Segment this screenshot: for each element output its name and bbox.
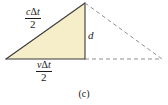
figure-caption: (c): [0, 88, 168, 99]
dashed-triangle-hypotenuse: [85, 3, 162, 59]
label-height-d: d: [88, 30, 94, 41]
fraction-denominator: 2: [36, 72, 52, 83]
fraction-numerator: cΔt: [25, 7, 41, 17]
fraction-denominator: 2: [25, 19, 41, 30]
fraction-v-delta-t-over-2: vΔt 2: [36, 60, 52, 83]
fraction-c-delta-t-over-2: cΔt 2: [25, 7, 41, 30]
fraction-numerator: vΔt: [36, 60, 52, 70]
var-t: t: [37, 6, 40, 17]
label-base: vΔt 2: [36, 60, 52, 83]
var-t: t: [48, 59, 51, 70]
figure-container: cΔt 2 vΔt 2 d (c): [0, 0, 168, 105]
label-hypotenuse: cΔt 2: [25, 7, 41, 30]
